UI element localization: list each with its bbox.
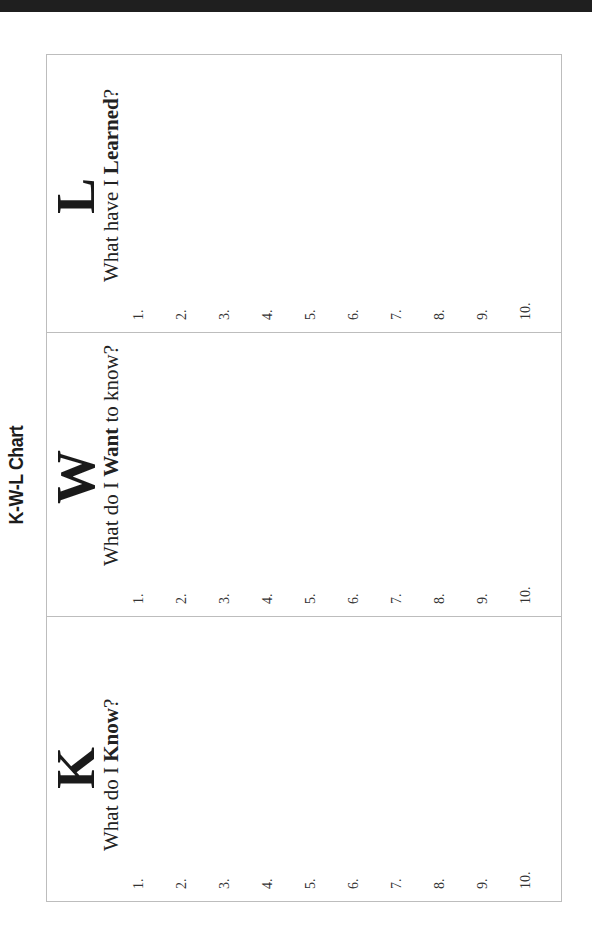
know-line-1[interactable]: 1. (131, 872, 174, 890)
want-line-2[interactable]: 2. (174, 587, 217, 605)
kwl-chart-table: K What do I Know? 1. 2. 3. 4. 5. 6. 7. 8… (46, 54, 562, 902)
learned-line-2[interactable]: 2. (174, 303, 217, 321)
learned-line-8[interactable]: 8. (432, 303, 475, 321)
want-line-1[interactable]: 1. (131, 587, 174, 605)
kwl-page: K-W-L Chart K What do I Know? 1. 2. 3. 4… (0, 0, 592, 950)
column-learned: L What have I Learned? 1. 2. 3. 4. 5. 6.… (47, 55, 561, 333)
know-line-10[interactable]: 10. (518, 872, 561, 890)
column-want: W What do I Want to know? 1. 2. 3. 4. 5.… (47, 333, 561, 617)
learned-line-1[interactable]: 1. (131, 303, 174, 321)
column-know: K What do I Know? 1. 2. 3. 4. 5. 6. 7. 8… (47, 617, 561, 901)
want-line-10[interactable]: 10. (518, 587, 561, 605)
know-lines: 1. 2. 3. 4. 5. 6. 7. 8. 9. 10. (131, 872, 561, 890)
learned-line-6[interactable]: 6. (346, 303, 389, 321)
want-line-5[interactable]: 5. (303, 587, 346, 605)
know-line-2[interactable]: 2. (174, 872, 217, 890)
learned-line-5[interactable]: 5. (303, 303, 346, 321)
learned-lines: 1. 2. 3. 4. 5. 6. 7. 8. 9. 10. (131, 303, 561, 321)
want-line-4[interactable]: 4. (260, 587, 303, 605)
top-bar (0, 0, 592, 12)
want-line-7[interactable]: 7. (389, 587, 432, 605)
know-line-8[interactable]: 8. (432, 872, 475, 890)
want-line-3[interactable]: 3. (217, 587, 260, 605)
learned-line-10[interactable]: 10. (518, 303, 561, 321)
know-line-3[interactable]: 3. (217, 872, 260, 890)
learned-line-3[interactable]: 3. (217, 303, 260, 321)
know-line-5[interactable]: 5. (303, 872, 346, 890)
want-line-6[interactable]: 6. (346, 587, 389, 605)
know-line-9[interactable]: 9. (475, 872, 518, 890)
column-question-want: What do I Want to know? (99, 345, 123, 566)
want-line-9[interactable]: 9. (475, 587, 518, 605)
column-question-learned: What have I Learned? (99, 89, 123, 282)
column-letter-k: K (49, 747, 103, 789)
know-line-4[interactable]: 4. (260, 872, 303, 890)
column-letter-w: W (49, 450, 103, 504)
page-title: K-W-L Chart (4, 71, 28, 879)
want-line-8[interactable]: 8. (432, 587, 475, 605)
know-line-7[interactable]: 7. (389, 872, 432, 890)
learned-line-4[interactable]: 4. (260, 303, 303, 321)
column-letter-l: L (49, 178, 103, 214)
learned-line-9[interactable]: 9. (475, 303, 518, 321)
learned-line-7[interactable]: 7. (389, 303, 432, 321)
want-lines: 1. 2. 3. 4. 5. 6. 7. 8. 9. 10. (131, 587, 561, 605)
column-question-know: What do I Know? (99, 699, 123, 851)
know-line-6[interactable]: 6. (346, 872, 389, 890)
